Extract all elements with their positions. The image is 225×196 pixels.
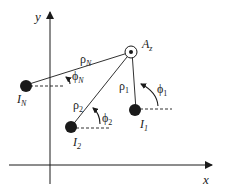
y-axis-label: y [33,9,41,24]
source-i-1: I1 ρ1 ϕ1 [119,79,167,133]
phi-1-arc [141,84,158,106]
rho-1-line [132,52,136,110]
rho-label: ρ1 [119,79,129,95]
rho-label: ρN [80,52,92,68]
source-label: I2 [72,135,81,151]
rho-label: ρ2 [73,98,83,114]
source-dot [129,104,141,116]
source-label: I1 [139,117,148,133]
x-axis-label: x [202,172,209,187]
phi-2-arc [93,108,100,124]
receiver-label: Az [141,37,153,53]
diagram: y x Az IN ρN ϕN I2 ρ2 ϕ2 I1 ρ1 ϕ1 [0,0,225,196]
source-label: IN [16,92,27,108]
source-i-2: I2 ρ2 ϕ2 [65,98,112,151]
phi-n-arc [66,77,70,84]
phi-label: ϕ2 [102,111,112,127]
axes: y x [9,9,212,187]
phi-label: ϕ1 [157,82,167,98]
receiver-a-z: Az [125,37,153,58]
source-i-n: IN ρN ϕN [16,52,92,108]
source-dot [20,80,32,92]
phi-label: ϕN [72,69,84,85]
source-dot [65,121,77,133]
receiver-dot [129,50,133,54]
